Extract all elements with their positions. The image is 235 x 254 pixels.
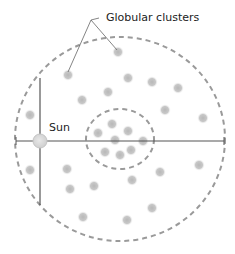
globular-cluster [76,94,88,106]
globular-cluster [146,76,158,88]
globular-cluster [92,127,104,139]
globular-cluster [193,159,205,171]
leader-line-1 [68,20,91,72]
leader-line-2 [91,20,117,50]
globular-clusters-label: Globular clusters [106,11,199,24]
globular-cluster [197,112,209,124]
globular-cluster [172,82,184,94]
globular-cluster [106,118,118,130]
globular-cluster [62,69,74,81]
globular-cluster [24,164,36,176]
cluster-group [24,46,209,226]
globular-cluster [122,125,134,137]
globular-cluster [154,166,166,178]
globular-cluster [102,86,114,98]
globular-cluster [77,211,89,223]
globular-cluster [88,180,100,192]
globular-cluster [114,149,126,161]
globular-cluster [112,46,124,58]
globular-cluster [24,109,36,121]
globular-cluster [121,214,133,226]
sun-marker [33,134,47,148]
globular-cluster [109,134,121,146]
globular-cluster [99,146,111,158]
globular-cluster [146,202,158,214]
leader-line-3 [91,18,99,20]
milky-way-diagram [0,0,235,254]
globular-cluster [159,104,171,116]
globular-cluster [61,163,73,175]
globular-cluster [122,72,134,84]
globular-cluster [126,174,138,186]
globular-cluster [64,183,76,195]
globular-cluster [125,144,137,156]
sun-label: Sun [49,121,70,134]
